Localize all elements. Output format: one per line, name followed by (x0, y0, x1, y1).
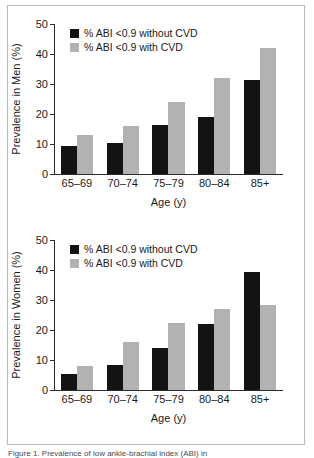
bar (152, 125, 168, 175)
x-axis-tick-label: 85+ (237, 393, 283, 405)
x-axis-tick-label: 65–69 (54, 177, 100, 189)
bar (214, 78, 230, 174)
legend-swatch-gray-icon (70, 43, 79, 52)
bar (152, 348, 168, 390)
y-axis-tick-label: 50 (36, 19, 48, 30)
x-axis-line (54, 390, 283, 391)
bar (77, 135, 93, 174)
x-axis-tick-label: 80–84 (191, 177, 237, 189)
legend-entry-without-cvd: % ABI <0.9 without CVD (70, 244, 198, 255)
x-axis-tick-label: 75–79 (146, 177, 192, 189)
y-axis-title-men: Prevalence in Men (%) (10, 43, 22, 154)
bar-group (244, 24, 276, 174)
legend-entry-without-cvd: % ABI <0.9 without CVD (70, 28, 198, 39)
bar (107, 365, 123, 391)
bar (77, 366, 93, 390)
x-axis-tick-label: 80–84 (191, 393, 237, 405)
bar (61, 374, 77, 391)
bar (244, 80, 260, 175)
bar (260, 48, 276, 174)
legend-men: % ABI <0.9 without CVD % ABI <0.9 with C… (70, 28, 198, 56)
x-axis-tick-label: 85+ (237, 177, 283, 189)
legend-label-with-cvd: % ABI <0.9 with CVD (84, 258, 183, 269)
y-axis-tick-label: 0 (42, 385, 48, 396)
legend-label-without-cvd: % ABI <0.9 without CVD (84, 28, 198, 39)
legend-swatch-gray-icon (70, 259, 79, 268)
legend-label-with-cvd: % ABI <0.9 with CVD (84, 42, 183, 53)
bar (198, 117, 214, 174)
figure-caption: Figure 1. Prevalence of low ankle-brachi… (8, 449, 308, 458)
bar (214, 309, 230, 390)
y-axis-tick-label: 30 (36, 79, 48, 90)
bar (107, 143, 123, 175)
y-axis-tick-label: 40 (36, 265, 48, 276)
bar (260, 305, 276, 391)
bar (244, 272, 260, 391)
x-axis-line (54, 174, 283, 175)
legend-swatch-black-icon (70, 29, 79, 38)
legend-women: % ABI <0.9 without CVD % ABI <0.9 with C… (70, 244, 198, 272)
bar (168, 102, 184, 174)
y-axis-tick (50, 390, 54, 391)
bar (198, 324, 214, 390)
x-axis-tick-label: 70–74 (100, 177, 146, 189)
bar-group (198, 24, 230, 174)
chart-panel-women: Prevalence in Women (%) 01020304050 65–6… (8, 224, 306, 439)
y-axis-tick-label: 20 (36, 325, 48, 336)
x-axis-tick-label: 70–74 (100, 393, 146, 405)
legend-entry-with-cvd: % ABI <0.9 with CVD (70, 42, 198, 53)
y-axis-tick-label: 30 (36, 295, 48, 306)
y-axis-tick-label: 10 (36, 355, 48, 366)
legend-entry-with-cvd: % ABI <0.9 with CVD (70, 258, 198, 269)
y-axis-tick-label: 20 (36, 109, 48, 120)
bar (123, 342, 139, 390)
y-axis-tick-label: 40 (36, 49, 48, 60)
bar-group (198, 240, 230, 390)
legend-swatch-black-icon (70, 245, 79, 254)
y-axis-tick-label: 0 (42, 169, 48, 180)
figure-frame: Prevalence in Men (%) 01020304050 65–697… (7, 5, 305, 445)
bar (61, 146, 77, 175)
x-axis-tick-label: 75–79 (146, 393, 192, 405)
y-axis-tick-label: 10 (36, 139, 48, 150)
x-axis-title-men: Age (y) (54, 196, 283, 208)
y-axis-tick (50, 174, 54, 175)
y-axis-tick-label: 50 (36, 235, 48, 246)
bar-group (244, 240, 276, 390)
x-axis-title-women: Age (y) (54, 412, 283, 424)
chart-panel-men: Prevalence in Men (%) 01020304050 65–697… (8, 8, 306, 223)
bar (168, 323, 184, 391)
legend-label-without-cvd: % ABI <0.9 without CVD (84, 244, 198, 255)
x-axis-tick-label: 65–69 (54, 393, 100, 405)
bar (123, 126, 139, 174)
y-axis-title-women: Prevalence in Women (%) (10, 251, 22, 379)
